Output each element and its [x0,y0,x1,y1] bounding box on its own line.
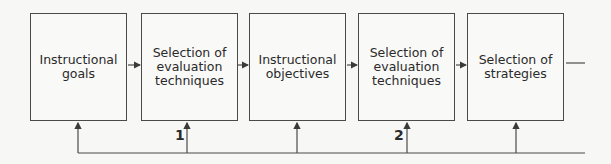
feedback-label-2: 2 [394,127,404,143]
box-label: Instructional objectives [254,53,340,81]
feedback-label-1: 1 [175,127,185,143]
box-evaluation-techniques-2: Selection of evaluation techniques [358,13,455,121]
box-label: Selection of evaluation techniques [366,46,448,88]
box-instructional-objectives: Instructional objectives [249,13,346,121]
box-label: Selection of strategies [475,53,557,81]
box-instructional-goals: Instructional goals [30,13,127,121]
box-selection-of-strategies: Selection of strategies [467,13,564,121]
box-label: Instructional goals [35,53,121,81]
box-label: Selection of evaluation techniques [149,46,231,88]
box-evaluation-techniques-1: Selection of evaluation techniques [141,13,238,121]
